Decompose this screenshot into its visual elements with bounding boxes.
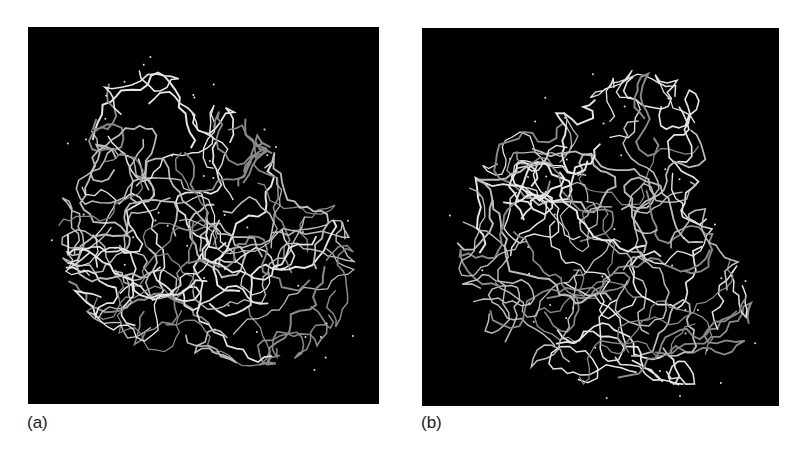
panel-label-b: (b) [421,413,442,433]
panel-label-a: (a) [27,413,48,433]
figure-panel-a [28,27,379,404]
figure-panel-b [422,28,779,406]
molecular-structure-image [422,28,779,406]
molecular-structure-image [28,27,379,404]
